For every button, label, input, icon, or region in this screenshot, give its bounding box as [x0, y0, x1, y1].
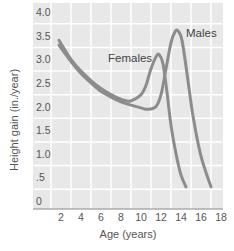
x-tick-label: 10	[135, 211, 147, 223]
y-tick-label: 1.5	[36, 124, 51, 136]
x-axis-label: Age (years)	[100, 228, 157, 240]
y-tick-label: 2.5	[36, 77, 51, 89]
series-label-females: Females	[108, 52, 152, 64]
x-tick-label: 8	[118, 211, 124, 223]
y-tick-label: .5	[36, 171, 45, 183]
x-tick-label: 12	[155, 211, 167, 223]
x-tick-label: 6	[98, 211, 104, 223]
y-tick-label: 3.0	[36, 53, 51, 65]
y-tick-label: 3.5	[36, 30, 51, 42]
growth-chart: 0.51.01.52.02.53.03.54.0 24681012141618 …	[0, 0, 234, 251]
y-tick-label: 2.0	[36, 101, 51, 113]
y-tick-label: 4.0	[36, 6, 51, 18]
x-tick-label: 18	[215, 211, 227, 223]
y-tick-label: 1.0	[36, 148, 51, 160]
x-tick-label: 4	[78, 211, 84, 223]
x-tick-label: 2	[58, 211, 64, 223]
y-axis-label: Height gain (in./year)	[8, 69, 20, 171]
y-tick-label: 0	[36, 195, 42, 207]
series-label-males: Males	[186, 27, 217, 39]
x-tick-label: 14	[175, 211, 187, 223]
x-axis-ticks: 24681012141618	[58, 211, 227, 223]
x-tick-label: 16	[195, 211, 207, 223]
